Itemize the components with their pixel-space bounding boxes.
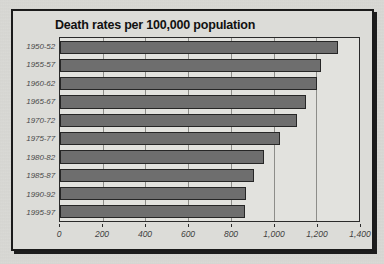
- plot-area: [59, 37, 360, 222]
- tick-mark: [59, 224, 60, 227]
- bar: [60, 59, 321, 72]
- chart-plot-wrapper: 1950-521955-571960-621965-671970-721975-…: [13, 11, 372, 249]
- bar-row: [60, 38, 359, 56]
- value-axis: 02004006008001,0001,2001,400: [59, 224, 360, 242]
- bar: [60, 187, 246, 200]
- category-label: 1965-67: [19, 93, 57, 112]
- tick-label: 1,400: [349, 229, 370, 239]
- category-label: 1955-57: [19, 56, 57, 75]
- bar: [60, 95, 306, 108]
- bar: [60, 114, 297, 127]
- bar: [60, 132, 280, 145]
- tick-label: 400: [138, 229, 152, 239]
- bar: [60, 41, 338, 54]
- tick-label: 600: [181, 229, 195, 239]
- tick-mark: [188, 224, 189, 227]
- chart-panel: Death rates per 100,000 population 1950-…: [11, 9, 374, 251]
- category-axis: 1950-521955-571960-621965-671970-721975-…: [19, 37, 57, 222]
- bar-row: [60, 75, 359, 93]
- bar-row: [60, 56, 359, 74]
- tick-mark: [231, 224, 232, 227]
- tick-label: 200: [95, 229, 109, 239]
- tick-label: 0: [57, 229, 62, 239]
- page-background: Death rates per 100,000 population 1950-…: [0, 0, 384, 264]
- category-label: 1980-82: [19, 148, 57, 167]
- gridline: [359, 38, 360, 221]
- bar-row: [60, 111, 359, 129]
- bar-row: [60, 203, 359, 221]
- category-label: 1960-62: [19, 74, 57, 93]
- tick-mark: [145, 224, 146, 227]
- category-label: 1985-87: [19, 167, 57, 186]
- category-label: 1970-72: [19, 111, 57, 130]
- tick-mark: [317, 224, 318, 227]
- bar-row: [60, 148, 359, 166]
- tick-mark: [360, 224, 361, 227]
- tick-label: 1,200: [306, 229, 327, 239]
- bar-row: [60, 93, 359, 111]
- bar-series: [60, 38, 359, 221]
- category-label: 1950-52: [19, 37, 57, 56]
- bar-row: [60, 166, 359, 184]
- bar: [60, 169, 254, 182]
- bar: [60, 150, 264, 163]
- bar-row: [60, 184, 359, 202]
- tick-label: 1,000: [263, 229, 284, 239]
- tick-mark: [102, 224, 103, 227]
- category-label: 1990-92: [19, 185, 57, 204]
- bar-row: [60, 129, 359, 147]
- tick-label: 800: [224, 229, 238, 239]
- bar: [60, 205, 245, 218]
- bar: [60, 77, 317, 90]
- category-label: 1975-77: [19, 130, 57, 149]
- tick-mark: [274, 224, 275, 227]
- category-label: 1995-97: [19, 204, 57, 223]
